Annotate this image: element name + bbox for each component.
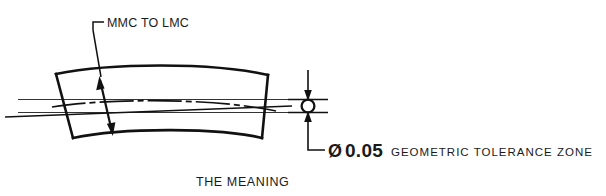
mmc-leader-stem: [93, 30, 101, 77]
figure-caption: THE MEANING: [196, 175, 289, 189]
tolerance-zone-label: GEOMETRIC TOLERANCE ZONE: [391, 146, 593, 158]
mmc-to-lmc-double-arrow: [96, 76, 115, 136]
zone-label-leader: [308, 146, 325, 150]
true-axis-line: [5, 106, 292, 117]
diameter-symbol: Ø: [328, 141, 342, 161]
mmc-to-lmc-label: MMC TO LMC: [107, 16, 189, 30]
diameter-value: 0.05: [345, 140, 383, 161]
tolerance-zone-circle: [302, 100, 315, 113]
mmc-arrowhead-up: [96, 76, 104, 90]
mmc-leader-shoulder: [93, 22, 104, 30]
technical-drawing-canvas: MMC TO LMC Ø 0.05 GEOMETRIC TOLERANCE ZO…: [0, 0, 606, 196]
part-bottom-edge: [73, 130, 262, 138]
curved-bar-part: [56, 66, 268, 139]
part-top-edge: [56, 66, 268, 76]
part-centerline: [52, 101, 276, 111]
